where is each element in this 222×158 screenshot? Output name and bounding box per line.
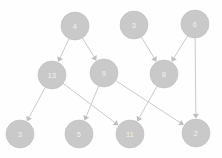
node-label: 5 (77, 130, 81, 139)
node-label: 3 (18, 130, 22, 139)
node-label: 9 (102, 69, 106, 78)
node-label: 3 (132, 21, 136, 30)
arrowhead-icon (178, 120, 184, 125)
graph-node[interactable]: 11 (116, 120, 144, 148)
graph-edge (86, 86, 98, 116)
node-label: 13 (48, 71, 57, 80)
graph-edge (139, 86, 157, 117)
graph-edge (29, 87, 45, 117)
node-label: 4 (73, 22, 77, 31)
node-label: 8 (162, 70, 166, 79)
node-label: 6 (193, 20, 197, 29)
node-label: 2 (194, 129, 198, 138)
arrowhead-icon (193, 114, 199, 119)
graph-node[interactable]: 3 (6, 120, 34, 148)
graph-edge (82, 38, 94, 57)
graph-node[interactable]: 6 (181, 10, 209, 38)
graph-node[interactable]: 3 (120, 11, 148, 39)
node-label: 11 (126, 130, 134, 139)
graph-edge (174, 36, 188, 58)
graph-node[interactable]: 5 (65, 120, 93, 148)
graph-diagram: 436139835112 (0, 0, 222, 158)
graph-edge (60, 39, 69, 58)
nodes-layer: 436139835112 (6, 10, 210, 148)
graph-node[interactable]: 4 (61, 12, 89, 40)
graph-edge (63, 83, 115, 122)
graph-node[interactable]: 2 (182, 119, 210, 147)
arrowhead-icon (113, 120, 119, 125)
graph-node[interactable]: 13 (38, 61, 66, 89)
graph-edge (195, 38, 196, 114)
graph-canvas: 436139835112 (0, 0, 222, 158)
graph-node[interactable]: 9 (90, 59, 118, 87)
graph-edge (141, 37, 154, 58)
graph-node[interactable]: 8 (150, 60, 178, 88)
